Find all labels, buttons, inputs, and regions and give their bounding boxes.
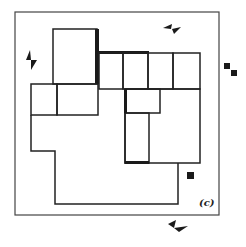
room-right-tall (125, 113, 149, 163)
break-marker-left (26, 50, 37, 70)
room-left-1 (31, 84, 57, 115)
room-top-2 (123, 53, 148, 89)
room-upper-tower (53, 29, 97, 84)
room-right-small (125, 89, 160, 113)
square-right-2 (231, 70, 237, 76)
room-left-2 (57, 84, 98, 115)
break-marker-bottom (168, 220, 188, 232)
square-right-1 (224, 63, 230, 69)
break-marker-top (163, 24, 181, 34)
room-top-3 (148, 53, 173, 89)
left-rooms (31, 84, 98, 115)
top-row-rooms (99, 53, 200, 89)
figure-label: (c) (199, 197, 215, 208)
main-outline (31, 115, 178, 204)
room-top-1 (99, 53, 123, 89)
room-right-large (125, 89, 200, 163)
thick-wall-inner (124, 89, 127, 113)
thick-wall-bottom (125, 161, 149, 164)
right-block (125, 89, 200, 163)
room-top-4 (173, 53, 200, 89)
square-inner (187, 172, 194, 179)
floor-plan-diagram (0, 0, 246, 247)
outer-frame (15, 12, 219, 215)
